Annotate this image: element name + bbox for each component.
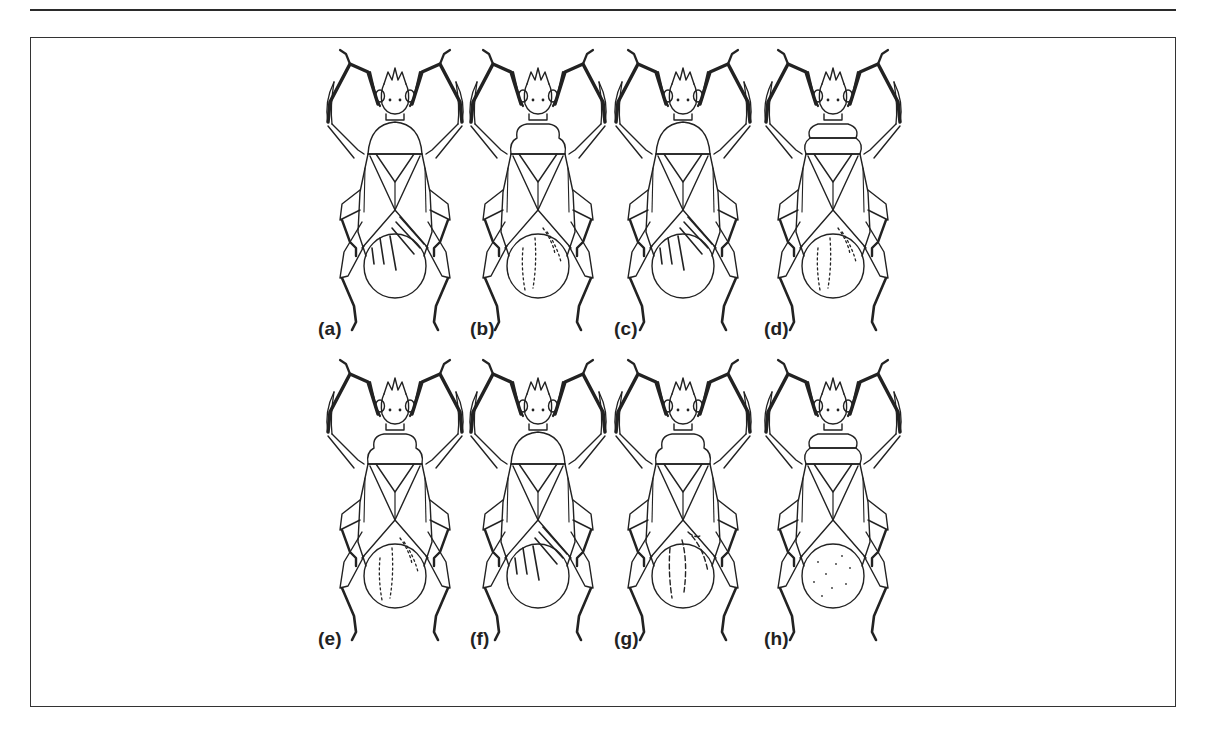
panel-label-e: (e) (318, 628, 342, 650)
wing-dots (522, 228, 561, 290)
wings (501, 464, 575, 608)
panel-label-b: (b) (470, 318, 495, 340)
panel-label-g: (g) (614, 628, 639, 650)
front-leg-left (615, 50, 668, 158)
wings (501, 154, 575, 298)
abdomen (507, 234, 569, 298)
abdomen (364, 544, 426, 608)
insect-illustration-f (463, 352, 613, 642)
front-leg-right (848, 50, 901, 158)
wing-stripes (372, 217, 424, 270)
front-leg-right (698, 50, 751, 158)
hind-legs (778, 222, 888, 330)
wings (358, 154, 432, 298)
front-leg-right (553, 360, 606, 468)
head (664, 378, 703, 430)
abdomen (802, 544, 864, 608)
pronotum (511, 124, 566, 154)
pronotum (368, 122, 422, 154)
front-leg-left (327, 50, 380, 158)
front-leg-left (470, 50, 523, 158)
insect-illustration-h (758, 352, 908, 642)
abdomen (802, 234, 864, 298)
panel-label-a: (a) (318, 318, 342, 340)
front-leg-right (553, 50, 606, 158)
panel-label-d: (d) (764, 318, 789, 340)
hind-legs (483, 222, 593, 330)
wing-speckle (813, 555, 851, 597)
wings (796, 464, 870, 608)
front-leg-left (765, 360, 818, 468)
insect-illustration-b (463, 42, 613, 332)
insect-illustration-e (320, 352, 470, 642)
head (519, 378, 558, 430)
hind-legs (628, 532, 738, 640)
wing-dots (817, 228, 856, 290)
front-leg-right (410, 50, 463, 158)
wings (646, 154, 720, 298)
pronotum (368, 434, 423, 464)
wing-stripes (660, 217, 712, 270)
wings (796, 154, 870, 298)
hind-legs (340, 532, 450, 640)
front-leg-left (470, 360, 523, 468)
panel-label-h: (h) (764, 628, 789, 650)
wing-dots (379, 538, 418, 600)
hind-legs (340, 222, 450, 330)
abdomen (652, 544, 714, 608)
hind-legs (628, 222, 738, 330)
head (814, 378, 853, 430)
front-leg-left (327, 360, 380, 468)
wings (358, 464, 432, 608)
panel-label-c: (c) (614, 318, 638, 340)
pronotum (656, 434, 711, 464)
insect-illustration-a (320, 42, 470, 332)
head (664, 68, 703, 120)
top-rule (30, 9, 1176, 11)
hind-legs (483, 532, 593, 640)
front-leg-left (615, 360, 668, 468)
pronotum (805, 434, 862, 464)
wing-stripes (515, 527, 567, 580)
front-leg-right (848, 360, 901, 468)
head (376, 68, 415, 120)
pronotum (805, 124, 862, 154)
front-leg-right (410, 360, 463, 468)
front-leg-right (698, 360, 751, 468)
insect-illustration-d (758, 42, 908, 332)
insect-illustration-c (608, 42, 758, 332)
front-leg-left (765, 50, 818, 158)
head (814, 68, 853, 120)
wings (646, 464, 720, 608)
insect-illustration-g (608, 352, 758, 642)
panel-label-f: (f) (470, 628, 490, 650)
pronotum (656, 122, 710, 154)
head (519, 68, 558, 120)
hind-legs (778, 532, 888, 640)
pronotum (511, 432, 565, 464)
head (376, 378, 415, 430)
